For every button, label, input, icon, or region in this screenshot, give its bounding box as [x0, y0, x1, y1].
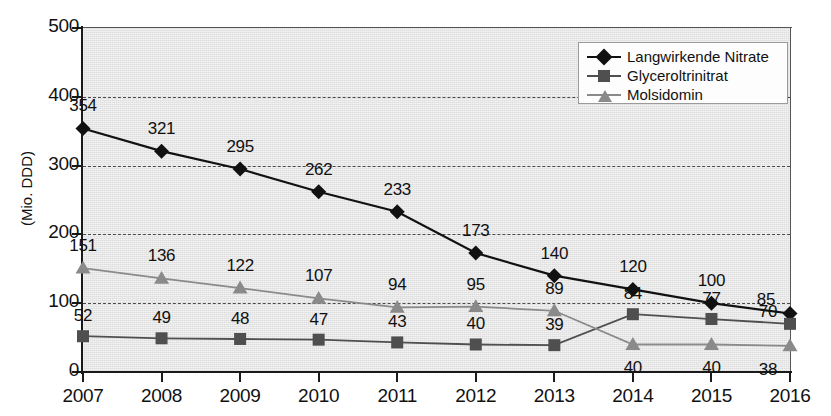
marker-2-2016 — [784, 318, 796, 330]
legend-label-2: Glyceroltrinitrat — [627, 67, 728, 84]
point-label-2-2016: 70 — [759, 302, 777, 322]
marker-3-2014 — [625, 337, 640, 350]
point-label-1-2010: 262 — [305, 160, 332, 180]
point-label-1-2014: 120 — [619, 257, 646, 277]
point-label-3-2009: 122 — [226, 256, 253, 276]
point-label-3-2007: 151 — [69, 236, 96, 256]
point-label-3-2015: 40 — [702, 358, 720, 378]
marker-2-2015 — [705, 313, 717, 325]
point-label-2-2015: 77 — [702, 289, 720, 309]
point-label-3-2016: 38 — [759, 360, 777, 380]
legend-item-2: Glyceroltrinitrat — [587, 66, 787, 85]
legend-item-3: Molsidomin — [587, 85, 787, 104]
marker-2-2008 — [156, 332, 168, 344]
legend-marker-square-icon — [598, 70, 610, 82]
marker-1-2010 — [311, 184, 326, 199]
point-label-1-2011: 233 — [383, 180, 410, 200]
point-label-2-2013: 39 — [545, 315, 563, 335]
series-line-2 — [83, 314, 790, 345]
marker-1-2011 — [390, 204, 405, 219]
marker-2-2014 — [627, 308, 639, 320]
marker-3-2007 — [76, 261, 91, 274]
point-label-3-2010: 107 — [305, 266, 332, 286]
marker-2-2010 — [313, 334, 325, 346]
legend-marker-diamond-icon — [596, 48, 613, 65]
series-line-3 — [83, 268, 790, 346]
legend-symbol-diamond-icon — [587, 48, 621, 66]
point-label-2-2008: 49 — [152, 308, 170, 328]
legend-label-3: Molsidomin — [627, 86, 703, 103]
marker-2-2012 — [470, 338, 482, 350]
point-label-1-2009: 295 — [226, 137, 253, 157]
marker-1-2008 — [154, 144, 169, 159]
marker-2-2009 — [234, 333, 246, 345]
legend-label-1: Langwirkende Nitrate — [627, 48, 769, 65]
chart-legend: Langwirkende NitrateGlyceroltrinitratMol… — [578, 42, 788, 104]
point-label-2-2007: 52 — [74, 306, 92, 326]
point-label-1-2013: 140 — [541, 244, 568, 264]
point-label-1-2008: 321 — [148, 119, 175, 139]
marker-3-2012 — [468, 299, 483, 312]
marker-3-2015 — [704, 337, 719, 350]
point-label-2-2014: 84 — [624, 284, 642, 304]
point-label-3-2013: 89 — [545, 279, 563, 299]
point-label-2-2010: 47 — [310, 310, 328, 330]
point-label-2-2009: 48 — [231, 309, 249, 329]
marker-1-2012 — [468, 245, 483, 260]
point-label-3-2014: 40 — [624, 358, 642, 378]
series-1 — [76, 121, 798, 321]
legend-symbol-square-icon — [587, 67, 621, 85]
legend-item-1: Langwirkende Nitrate — [587, 47, 787, 66]
series-line-1 — [83, 128, 790, 313]
point-label-3-2012: 95 — [467, 275, 485, 295]
legend-symbol-triangle-icon — [587, 86, 621, 104]
point-label-2-2011: 43 — [388, 312, 406, 332]
chart-container: 5004003002001000 (Mio. DDD) 200720082009… — [0, 0, 831, 416]
point-label-3-2008: 136 — [148, 246, 175, 266]
point-label-3-2011: 94 — [388, 275, 406, 295]
marker-1-2007 — [76, 121, 91, 136]
marker-2-2011 — [391, 336, 403, 348]
point-label-2-2012: 40 — [467, 314, 485, 334]
marker-3-2016 — [783, 338, 798, 351]
point-label-1-2012: 173 — [462, 221, 489, 241]
marker-2-2007 — [77, 330, 89, 342]
marker-1-2009 — [233, 162, 248, 177]
marker-2-2013 — [548, 339, 560, 351]
point-label-1-2007: 354 — [69, 96, 96, 116]
legend-marker-triangle-icon — [598, 90, 612, 102]
